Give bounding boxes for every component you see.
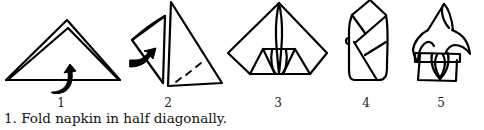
figure-4-wrapped-napkin-icon [346, 0, 388, 80]
step-number-3: 3 [274, 96, 282, 110]
step-number-1: 1 [57, 96, 65, 110]
step-number-2: 2 [164, 96, 172, 110]
step-caption: 1. Fold napkin in half diagonally. [4, 110, 227, 126]
figure-1-diagonal-fold-icon [6, 20, 120, 94]
figure-2-corner-fold-icon [130, 2, 222, 86]
figure-3-pleated-kite-icon [228, 3, 327, 74]
step-number-4: 4 [362, 96, 370, 110]
step-number-5: 5 [437, 96, 445, 110]
folding-diagram: 1 2 3 4 5 [0, 0, 484, 100]
figure-5-fleur-de-lis-napkin-icon [413, 4, 470, 81]
